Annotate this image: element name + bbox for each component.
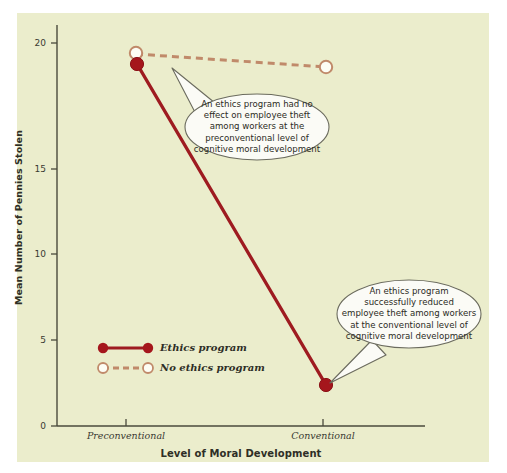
figure-container: 20 15 10 5 0 Preconventional Conventiona…: [0, 0, 507, 473]
y-axis-title: Mean Number of Pennies Stolen: [13, 128, 24, 308]
callout1-line1: An ethics program had no: [187, 99, 327, 110]
legend-label-no-ethics-program: No ethics program: [160, 362, 265, 373]
callout2-line5: cognitive moral development: [339, 331, 479, 342]
x-tick-label-preconventional: Preconventional: [56, 430, 196, 441]
callout1-line3: among workers at the: [187, 121, 327, 132]
callout2-line2: successfully reduced: [339, 297, 479, 308]
legend-marker-ethics-right: [143, 343, 153, 353]
callout2-line1: An ethics program: [339, 286, 479, 297]
legend-marker-no-ethics-right: [143, 363, 153, 373]
datapoint-ethics-conventional: [319, 378, 332, 391]
datapoint-ethics-preconventional: [130, 57, 143, 70]
callout2-line4: at the conventional level of: [339, 320, 479, 331]
y-tick-label-5: 5: [18, 335, 46, 345]
callout2-line3: employee theft among workers: [339, 308, 479, 319]
legend-label-ethics-program: Ethics program: [160, 342, 247, 353]
chart-canvas: [0, 0, 507, 473]
callout1-line4: preconventional level of: [187, 133, 327, 144]
callout1-line2: effect on employee theft: [187, 110, 327, 121]
callout-text-preconventional: An ethics program had no effect on emplo…: [187, 99, 327, 155]
legend-marker-ethics-left: [98, 343, 108, 353]
callout-tail-conventional: [330, 340, 386, 383]
callout-text-conventional: An ethics program successfully reduced e…: [339, 286, 479, 342]
x-tick-label-conventional: Conventional: [253, 430, 393, 441]
series-line-no-ethics-program: [136, 54, 326, 67]
y-tick-label-20: 20: [18, 38, 46, 48]
legend-marker-no-ethics-left: [98, 363, 108, 373]
callout1-line5: cognitive moral development: [187, 144, 327, 155]
x-axis-title: Level of Moral Development: [57, 448, 425, 459]
datapoint-no-ethics-conventional: [320, 61, 332, 73]
y-tick-label-0: 0: [18, 421, 46, 431]
